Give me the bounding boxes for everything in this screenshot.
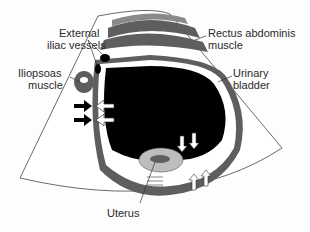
external-iliac-vessel-1 (100, 54, 110, 62)
external-iliac-vessel-2 (95, 64, 101, 74)
urinary-bladder (104, 66, 226, 161)
label-urinary-bladder: Urinary bladder (233, 67, 270, 91)
label-rectus-abdominis-muscle: Rectus abdominis muscle (208, 27, 295, 51)
ultrasound-diagram: External iliac vessels Iliopsoas muscle … (0, 0, 310, 232)
uterus-endometrium (150, 155, 170, 163)
label-external-iliac-vessels: External iliac vessels (47, 27, 106, 51)
label-iliopsoas-muscle: Iliopsoas muscle (18, 67, 63, 91)
label-uterus: Uterus (107, 207, 139, 219)
